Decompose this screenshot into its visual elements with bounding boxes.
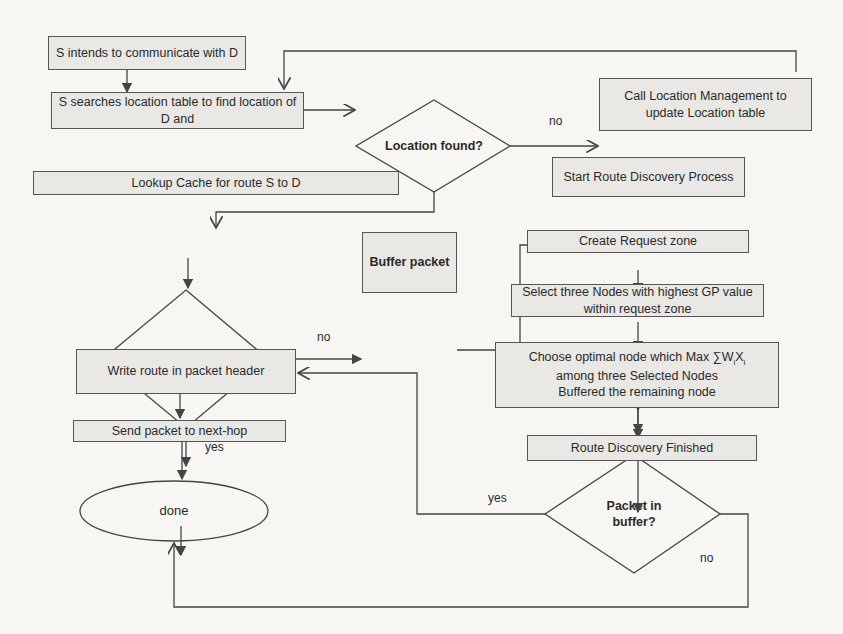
flowchart-lower-connectors bbox=[0, 0, 843, 634]
